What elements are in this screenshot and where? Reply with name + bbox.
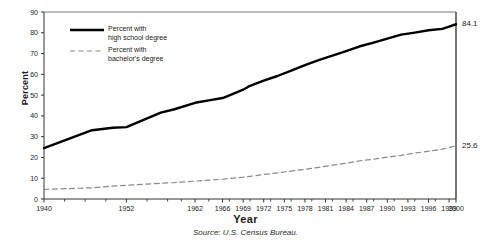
svg-text:0: 0 [34,196,38,203]
axis-layer [44,12,456,199]
y-axis-title: Percent [20,58,30,118]
svg-text:1966: 1966 [215,205,231,212]
source-note: Source: U.S. Census Bureau. [0,228,491,237]
legend-label-bachelors: Percent with bachelor's degree [108,46,163,63]
chart-figure: Percent 01020304050607080901940195219621… [0,0,491,242]
end-value-high-school: 84.1 [462,19,478,28]
svg-text:50: 50 [30,92,38,99]
svg-text:60: 60 [30,71,38,78]
series-line-high-school [44,24,456,148]
svg-text:20: 20 [30,154,38,161]
svg-text:80: 80 [30,29,38,36]
x-axis-title: Year [0,213,491,225]
legend-label-high-school: Percent with high school degree [108,25,167,42]
svg-text:1952: 1952 [119,205,135,212]
svg-text:10: 10 [30,175,38,182]
svg-text:1969: 1969 [235,205,251,212]
svg-text:1940: 1940 [36,205,52,212]
svg-text:1984: 1984 [338,205,354,212]
series-line-bachelors [44,146,456,190]
svg-text:30: 30 [30,133,38,140]
chart-plot-area: 0102030405060708090194019521962196619691… [0,0,491,242]
svg-text:1987: 1987 [359,205,375,212]
svg-text:1990: 1990 [380,205,396,212]
svg-text:90: 90 [30,9,38,16]
svg-text:70: 70 [30,50,38,57]
svg-text:1975: 1975 [277,205,293,212]
svg-text:1972: 1972 [256,205,272,212]
svg-text:40: 40 [30,112,38,119]
svg-text:1981: 1981 [318,205,334,212]
legend-layer [70,30,104,51]
tick-layer: 0102030405060708090194019521962196619691… [30,9,464,212]
end-value-bachelors: 25.6 [462,141,478,150]
svg-text:2000: 2000 [448,205,464,212]
svg-text:1962: 1962 [187,205,203,212]
svg-text:1993: 1993 [400,205,416,212]
svg-text:1996: 1996 [421,205,437,212]
series-layer [44,24,456,189]
svg-text:1978: 1978 [297,205,313,212]
